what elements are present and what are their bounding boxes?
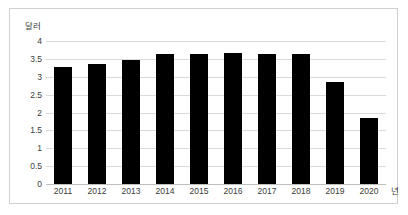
x-axis-tick-label: 2014 bbox=[156, 187, 175, 196]
x-axis-tick-label: 2012 bbox=[88, 187, 107, 196]
bar bbox=[156, 54, 174, 184]
bar bbox=[224, 53, 242, 184]
bar bbox=[54, 67, 72, 184]
bar bbox=[360, 118, 378, 184]
x-axis-tick-label: 2011 bbox=[54, 187, 72, 196]
y-axis-tick-label: 1.5 bbox=[30, 126, 42, 135]
bar bbox=[88, 64, 106, 184]
bars-layer bbox=[46, 41, 386, 184]
x-axis-tick-label: 2018 bbox=[292, 187, 311, 196]
chart-frame: 달러 00.511.522.533.54 2011201220132014201… bbox=[9, 8, 398, 204]
x-axis-tick-label: 2019 bbox=[326, 187, 345, 196]
bar bbox=[326, 82, 344, 184]
bar bbox=[258, 54, 276, 184]
x-axis-tick-label: 2017 bbox=[258, 187, 277, 196]
y-axis-tick-label: 1 bbox=[37, 144, 42, 153]
x-axis-tick-label: 2016 bbox=[224, 187, 243, 196]
y-axis-tick-label: 0.5 bbox=[30, 162, 42, 171]
y-axis-title: 달러 bbox=[25, 19, 41, 31]
bar bbox=[190, 54, 208, 184]
y-axis-tick-label: 0 bbox=[37, 180, 42, 189]
plot-area: 00.511.522.533.54 bbox=[46, 41, 386, 184]
y-axis-tick-label: 4 bbox=[37, 37, 42, 46]
y-axis-tick-label: 3.5 bbox=[30, 55, 42, 64]
x-axis-tick-label: 2020 bbox=[360, 187, 379, 196]
bar bbox=[292, 54, 310, 184]
bar bbox=[122, 60, 140, 184]
y-axis-tick-label: 3 bbox=[37, 73, 42, 82]
axis-baseline bbox=[46, 184, 386, 185]
x-axis-labels: 2011201220132014201520162017201820192020 bbox=[46, 187, 386, 201]
x-axis-title: 년 bbox=[391, 187, 399, 196]
x-axis-tick-label: 2013 bbox=[122, 187, 141, 196]
y-axis-tick-label: 2 bbox=[37, 108, 42, 117]
x-axis-tick-label: 2015 bbox=[190, 187, 209, 196]
y-axis-tick-label: 2.5 bbox=[30, 90, 42, 99]
